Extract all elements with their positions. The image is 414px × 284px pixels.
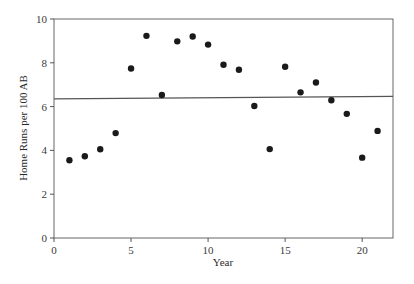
data-point bbox=[297, 89, 303, 95]
data-point bbox=[159, 92, 165, 98]
data-point bbox=[220, 62, 226, 68]
data-point bbox=[236, 67, 242, 73]
data-point bbox=[66, 157, 72, 163]
data-point bbox=[267, 146, 273, 152]
x-tick-label: 10 bbox=[203, 244, 215, 256]
x-tick-label: 5 bbox=[128, 244, 134, 256]
data-point bbox=[251, 103, 257, 109]
y-tick-label: 6 bbox=[42, 101, 48, 113]
y-axis-ticks: 0246810 bbox=[36, 13, 54, 244]
trend-line bbox=[54, 96, 393, 99]
data-point bbox=[359, 154, 365, 160]
y-tick-label: 2 bbox=[42, 188, 48, 200]
y-axis-label: Home Runs per 100 AB bbox=[17, 75, 29, 181]
data-point bbox=[344, 111, 350, 117]
scatter-chart: 0246810 05101520 Year Home Runs per 100 … bbox=[0, 0, 414, 284]
x-tick-label: 0 bbox=[51, 244, 57, 256]
y-tick-label: 10 bbox=[36, 13, 48, 25]
x-tick-label: 15 bbox=[280, 244, 292, 256]
y-tick-label: 0 bbox=[42, 232, 48, 244]
data-point bbox=[313, 79, 319, 85]
y-tick-label: 8 bbox=[42, 57, 48, 69]
plot-frame bbox=[54, 19, 393, 238]
data-point bbox=[112, 130, 118, 136]
data-point bbox=[143, 33, 149, 39]
y-tick-label: 4 bbox=[42, 144, 48, 156]
data-point bbox=[82, 153, 88, 159]
data-point bbox=[374, 128, 380, 134]
data-point bbox=[328, 97, 334, 103]
data-point bbox=[128, 65, 134, 71]
x-axis-label: Year bbox=[213, 256, 234, 268]
data-point bbox=[97, 146, 103, 152]
data-point bbox=[282, 64, 288, 70]
x-tick-label: 20 bbox=[357, 244, 369, 256]
data-point bbox=[189, 33, 195, 39]
x-axis-ticks: 05101520 bbox=[51, 238, 368, 256]
data-point bbox=[205, 41, 211, 47]
data-point bbox=[174, 38, 180, 44]
